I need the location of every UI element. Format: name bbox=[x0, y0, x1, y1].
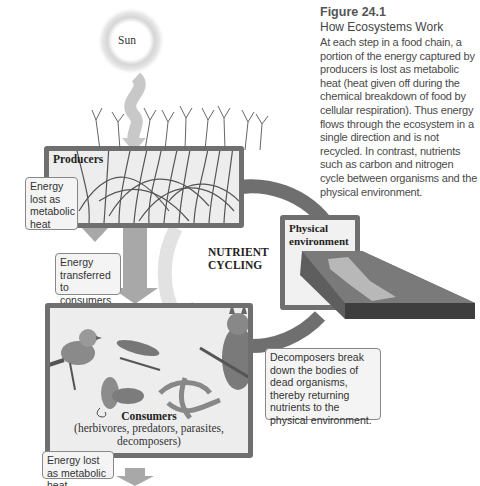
nutrient-cycling-line1: NUTRIENT bbox=[208, 246, 269, 259]
producers-label: Producers bbox=[53, 153, 103, 165]
sun-label: Sun bbox=[118, 34, 136, 46]
cycle-arrow-bottom bbox=[246, 316, 320, 346]
callout-energy-transferred: Energy transferred to consumers bbox=[55, 253, 121, 295]
energy-transfer-arrow bbox=[123, 228, 147, 290]
callout-producer-heat: Energy lost as metabolic heat bbox=[25, 177, 78, 230]
grasshopper-icon bbox=[115, 337, 161, 370]
grass-heads bbox=[90, 100, 270, 150]
consumers-box: Consumers (herbivores, predators, parasi… bbox=[45, 303, 253, 458]
callout-decomposers: Decomposers break down the bodies of dea… bbox=[265, 348, 381, 420]
consumers-label: Consumers bbox=[50, 410, 248, 422]
nutrient-cycling-line2: CYCLING bbox=[208, 259, 269, 272]
owl-icon bbox=[200, 308, 248, 390]
callout-consumer-heat: Energy lost as metabolic heat bbox=[42, 451, 114, 479]
nutrient-cycling-label: NUTRIENT CYCLING bbox=[208, 246, 269, 272]
bird-icon bbox=[50, 329, 102, 390]
terrain-illustration bbox=[300, 245, 480, 320]
consumers-sublabel: (herbivores, predators, parasites, decom… bbox=[50, 422, 248, 448]
